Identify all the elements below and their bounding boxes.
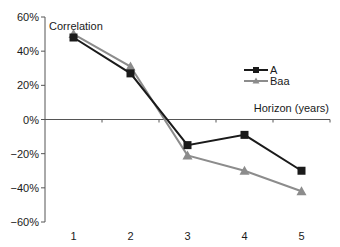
square-marker-icon	[241, 131, 249, 139]
legend-a-square-icon	[253, 67, 259, 73]
square-marker-icon	[127, 69, 135, 77]
triangle-marker-icon	[126, 62, 136, 71]
legend: A Baa	[244, 64, 290, 87]
square-marker-icon	[184, 141, 192, 149]
y-tick-label: −60%	[11, 216, 40, 228]
y-tick-label: −20%	[11, 148, 40, 160]
legend-baa-label: Baa	[270, 75, 290, 87]
x-tick-label: 3	[184, 230, 190, 242]
y-axis: 60%40%20%0%−20%−40%−60%	[11, 11, 45, 228]
x-axis: 12345	[45, 120, 330, 243]
x-tick-label: 2	[127, 230, 133, 242]
x-tick-label: 1	[70, 230, 76, 242]
y-tick-label: −40%	[11, 182, 40, 194]
x-tick-label: 4	[241, 230, 247, 242]
x-axis-title: Horizon (years)	[254, 102, 329, 114]
square-marker-icon	[298, 167, 306, 175]
y-tick-label: 0%	[23, 114, 39, 126]
y-tick-label: 40%	[17, 45, 39, 57]
y-axis-title: Correlation	[49, 20, 103, 32]
y-tick-label: 20%	[17, 79, 39, 91]
y-tick-label: 60%	[17, 11, 39, 23]
line-chart: 60%40%20%0%−20%−40%−60% 12345 Correlatio…	[0, 0, 340, 247]
square-marker-icon	[70, 34, 78, 42]
x-tick-label: 5	[298, 230, 304, 242]
